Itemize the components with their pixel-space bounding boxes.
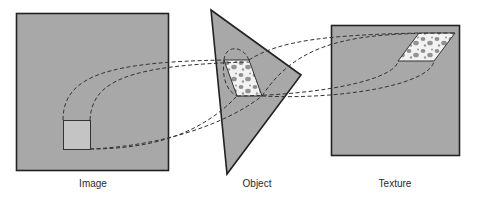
object-label: Object [243,178,272,189]
image-square [17,14,169,171]
object-panel [211,10,301,174]
texture-panel [332,26,460,156]
texture-mapping-diagram [0,0,477,198]
image-pixel [64,121,91,150]
image-label: Image [79,178,107,189]
image-panel [17,14,169,171]
texture-label: Texture [379,178,412,189]
